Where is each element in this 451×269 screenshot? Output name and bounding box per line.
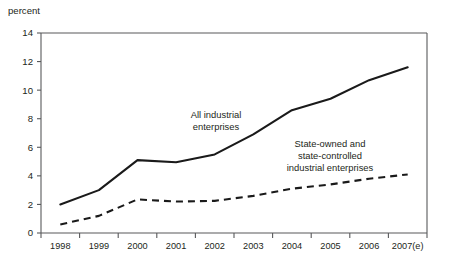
annotation-state-owned: State-owned andstate-controlledindustria… [287,138,374,173]
y-tick-label: 14 [22,27,33,38]
x-tick-label: 2006 [359,241,379,251]
y-tick-label: 0 [28,227,33,238]
y-tick-label: 4 [28,170,34,181]
y-axis-title: percent [8,5,40,16]
x-tick-label: 2003 [243,241,263,251]
y-tick-label: 8 [28,113,33,124]
annotation-all-industrial: All industrialenterprises [191,109,242,132]
chart-container: percent024681012141998199920002001200220… [0,0,451,269]
x-tick-label: 2005 [320,241,340,251]
x-tick-label: 2000 [127,241,147,251]
y-tick-label: 12 [22,56,33,67]
x-tick-label: 1999 [89,241,109,251]
x-tick-label: 2004 [282,241,302,251]
x-tick-label: 2002 [204,241,224,251]
series-line-2 [60,174,407,224]
y-tick-label: 2 [28,199,33,210]
x-tick-label: 2001 [166,241,186,251]
series-line-1 [60,67,407,204]
x-tick-label: 2007(e) [392,241,424,251]
line-chart: percent024681012141998199920002001200220… [0,0,451,269]
y-tick-label: 10 [22,85,33,96]
x-tick-label: 1998 [50,241,70,251]
y-tick-label: 6 [28,142,33,153]
